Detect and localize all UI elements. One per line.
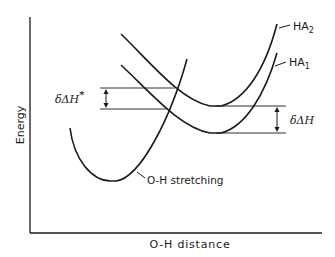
label-ha2: HA2 <box>293 20 314 35</box>
curve-ha1 <box>121 53 277 133</box>
double-arrow-icon <box>104 89 109 108</box>
label-oh-stretching: O-H stretching <box>147 174 224 186</box>
label-ha1: HA1 <box>289 56 310 71</box>
x-axis-label: O-H distance <box>150 238 231 251</box>
double-arrow-icon <box>275 107 280 132</box>
label-delta-dh: δΔH <box>290 114 315 127</box>
y-axis-label: Energy <box>14 105 27 144</box>
leader-ha2 <box>279 25 290 28</box>
curve-ha2 <box>121 24 277 106</box>
energy-diagram: Energy O-H distance HA2 HA1 O-H stretchi… <box>0 0 335 257</box>
leader-ha1 <box>275 62 286 66</box>
label-delta-dh-star: δΔH* <box>55 89 85 106</box>
leader-oh-stretching <box>137 172 145 178</box>
curve-oh-stretching <box>70 59 187 181</box>
